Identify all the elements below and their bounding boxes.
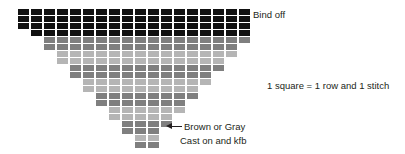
stitch-cell bbox=[213, 23, 224, 29]
stitch-cell bbox=[109, 65, 120, 71]
stitch-cell bbox=[83, 9, 94, 15]
stitch-cell bbox=[174, 86, 185, 92]
stitch-cell bbox=[161, 44, 172, 50]
stitch-cell bbox=[161, 30, 172, 36]
stitch-cell bbox=[187, 79, 198, 85]
stitch-cell bbox=[187, 37, 198, 43]
stitch-cell bbox=[174, 30, 185, 36]
stitch-cell bbox=[161, 100, 172, 106]
stitch-cell bbox=[70, 58, 81, 64]
stitch-cell bbox=[31, 16, 42, 22]
stitch-cell bbox=[187, 30, 198, 36]
stitch-cell bbox=[148, 51, 159, 57]
stitch-cell bbox=[148, 86, 159, 92]
stitch-cell bbox=[96, 23, 107, 29]
stitch-cell bbox=[83, 86, 94, 92]
stitch-cell bbox=[200, 44, 211, 50]
stitch-cell bbox=[213, 9, 224, 15]
stitch-cell bbox=[122, 107, 133, 113]
stitch-cell bbox=[174, 9, 185, 15]
stitch-cell bbox=[174, 79, 185, 85]
stitch-cell bbox=[161, 93, 172, 99]
label-brown-or-gray-group: Brown or Gray bbox=[166, 121, 245, 132]
stitch-cell bbox=[83, 37, 94, 43]
stitch-cell bbox=[226, 44, 237, 50]
stitch-cell bbox=[109, 16, 120, 22]
stitch-cell bbox=[135, 86, 146, 92]
chart-row bbox=[31, 30, 250, 36]
stitch-cell bbox=[135, 23, 146, 29]
stitch-cell bbox=[96, 100, 107, 106]
stitch-cell bbox=[148, 128, 159, 134]
label-cast-on: Cast on and kfb bbox=[180, 135, 247, 146]
stitch-cell bbox=[57, 51, 68, 57]
stitch-cell bbox=[239, 23, 250, 29]
stitch-cell bbox=[70, 51, 81, 57]
stitch-cell bbox=[187, 58, 198, 64]
chart-row bbox=[109, 114, 172, 120]
stitch-cell bbox=[148, 9, 159, 15]
chart-row bbox=[57, 51, 237, 57]
stitch-cell bbox=[122, 37, 133, 43]
stitch-cell bbox=[174, 37, 185, 43]
arrow-left-icon bbox=[166, 122, 182, 131]
stitch-cell bbox=[96, 72, 107, 78]
stitch-cell bbox=[109, 86, 120, 92]
stitch-cell bbox=[200, 51, 211, 57]
stitch-cell bbox=[135, 58, 146, 64]
stitch-cell bbox=[213, 65, 224, 71]
stitch-cell bbox=[161, 114, 172, 120]
stitch-cell bbox=[96, 65, 107, 71]
stitch-cell bbox=[187, 72, 198, 78]
stitch-cell bbox=[200, 9, 211, 15]
stitch-cell bbox=[44, 30, 55, 36]
stitch-cell bbox=[200, 30, 211, 36]
stitch-cell bbox=[109, 114, 120, 120]
stitch-cell bbox=[44, 44, 55, 50]
stitch-cell bbox=[135, 135, 146, 141]
stitch-cell bbox=[200, 37, 211, 43]
stitch-cell bbox=[174, 93, 185, 99]
stitch-cell bbox=[174, 72, 185, 78]
chart-row bbox=[18, 16, 250, 22]
stitch-cell bbox=[44, 37, 55, 43]
stitch-cell bbox=[96, 58, 107, 64]
stitch-cell bbox=[18, 16, 29, 22]
chart-row bbox=[83, 79, 211, 85]
stitch-cell bbox=[57, 9, 68, 15]
chart-row bbox=[83, 86, 198, 92]
stitch-cell bbox=[200, 58, 211, 64]
stitch-cell bbox=[18, 9, 29, 15]
stitch-cell bbox=[226, 37, 237, 43]
stitch-cell bbox=[96, 30, 107, 36]
chart-row bbox=[18, 9, 250, 15]
stitch-cell bbox=[135, 44, 146, 50]
stitch-cell bbox=[213, 44, 224, 50]
stitch-cell bbox=[148, 72, 159, 78]
stitch-cell bbox=[148, 135, 159, 141]
stitch-cell bbox=[44, 16, 55, 22]
stitch-cell bbox=[213, 30, 224, 36]
stitch-cell bbox=[187, 44, 198, 50]
stitch-cell bbox=[70, 30, 81, 36]
stitch-cell bbox=[109, 79, 120, 85]
stitch-cell bbox=[200, 16, 211, 22]
stitch-cell bbox=[96, 51, 107, 57]
stitch-cell bbox=[96, 93, 107, 99]
stitch-cell bbox=[122, 9, 133, 15]
stitch-cell bbox=[135, 51, 146, 57]
stitch-cell bbox=[187, 23, 198, 29]
chart-row bbox=[135, 135, 159, 141]
stitch-cell bbox=[174, 16, 185, 22]
stitch-cell bbox=[135, 100, 146, 106]
stitch-cell bbox=[161, 86, 172, 92]
stitch-cell bbox=[161, 9, 172, 15]
stitch-cell bbox=[96, 16, 107, 22]
label-legend-scale: 1 square = 1 row and 1 stitch bbox=[267, 80, 389, 91]
stitch-cell bbox=[135, 128, 146, 134]
stitch-cell bbox=[161, 37, 172, 43]
stitch-cell bbox=[174, 65, 185, 71]
stitch-cell bbox=[122, 128, 133, 134]
stitch-cell bbox=[135, 37, 146, 43]
stitch-cell bbox=[83, 23, 94, 29]
